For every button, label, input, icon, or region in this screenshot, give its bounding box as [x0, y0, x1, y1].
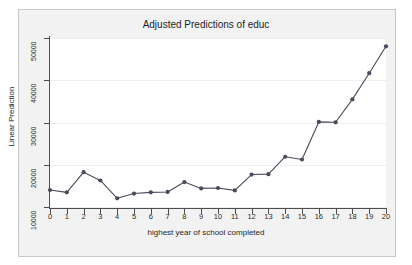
- y-tick-50000: [44, 38, 49, 39]
- gridline-50000: [50, 38, 386, 39]
- y-tick-20000: [44, 165, 49, 166]
- gridline-20000: [50, 165, 386, 166]
- figure: Adjusted Predictions of educ 50000 40000…: [0, 0, 412, 265]
- y-axis-title: Linear Prediction: [7, 62, 16, 172]
- y-tick-10000: [44, 207, 49, 208]
- x-tick-label-20: 20: [376, 212, 396, 221]
- gridline-40000: [50, 80, 386, 81]
- y-tick-label-40000: 40000: [30, 84, 37, 103]
- y-axis-line: [49, 36, 50, 209]
- chart-title: Adjusted Predictions of educ: [0, 19, 412, 30]
- y-tick-label-20000: 20000: [30, 169, 37, 188]
- y-tick-label-50000: 50000: [30, 42, 37, 61]
- plot-area: [50, 38, 386, 208]
- y-tick-label-30000: 30000: [30, 127, 37, 146]
- y-tick-40000: [44, 80, 49, 81]
- gridline-30000: [50, 123, 386, 124]
- y-tick-30000: [44, 123, 49, 124]
- x-axis-title: highest year of school completed: [0, 228, 412, 237]
